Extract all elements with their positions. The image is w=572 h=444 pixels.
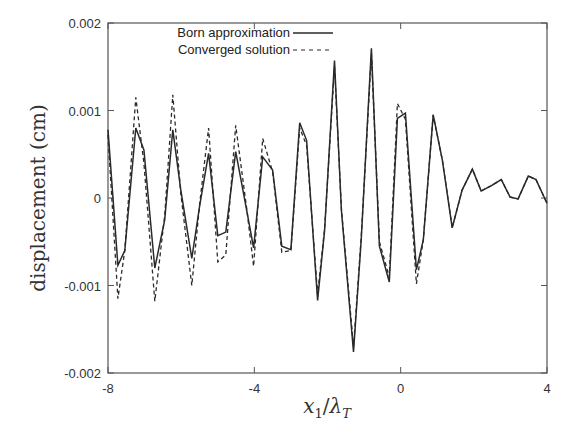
- x-tick-label: -4: [249, 381, 261, 396]
- series-converged-solution: [108, 54, 547, 347]
- x-axis-title: x1/λT: [303, 394, 352, 421]
- x-axis-title-sub2: T: [342, 406, 352, 421]
- y-axis: 0.0020.0010-0.001-0.002: [64, 16, 547, 381]
- x-tick-label: -8: [102, 381, 114, 396]
- x-axis-title-x: x: [303, 394, 314, 418]
- y-tick-label: 0: [94, 191, 101, 206]
- y-tick-label: 0.002: [68, 16, 101, 31]
- series-born-approximation: [108, 48, 547, 352]
- legend: Born approximation Converged solution: [177, 25, 333, 57]
- legend-label-born: Born approximation: [177, 25, 290, 40]
- x-tick-label: 4: [543, 381, 550, 396]
- series-layer: [108, 48, 547, 352]
- y-tick-label: -0.002: [64, 366, 101, 381]
- x-axis-title-sub1: 1: [314, 406, 322, 421]
- legend-label-converged: Converged solution: [178, 42, 290, 57]
- y-tick-label: -0.001: [64, 279, 101, 294]
- plot-frame: [108, 23, 547, 373]
- chart: 0.0020.0010-0.001-0.002 -8-404 Born appr…: [0, 0, 572, 444]
- x-axis-title-lambda: λ: [328, 394, 342, 418]
- y-tick-label: 0.001: [68, 104, 101, 119]
- x-tick-label: 0: [397, 381, 404, 396]
- y-axis-title: displacement (cm): [26, 104, 50, 291]
